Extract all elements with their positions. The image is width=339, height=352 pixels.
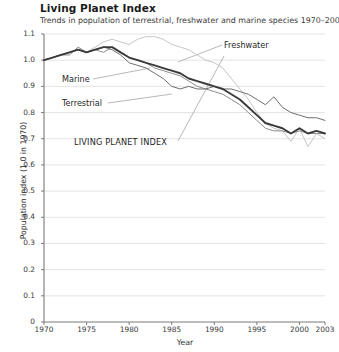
x-axis-title: Year <box>177 338 194 347</box>
series-label-living-planet-index: LIVING PLANET INDEX <box>74 138 167 147</box>
x-tick-label: 1975 <box>77 325 96 334</box>
x-tick-label: 1970 <box>35 325 54 334</box>
leader-marine <box>93 68 150 79</box>
series-label-marine: Marine <box>62 75 90 84</box>
x-tick-label: 1995 <box>247 325 266 334</box>
x-tick-label: 1985 <box>162 325 181 334</box>
living-planet-index-figure: Living Planet Index Trends in population… <box>0 0 339 352</box>
leader-freshwater <box>178 45 222 62</box>
leader-living-planet-index <box>178 56 224 141</box>
series-label-freshwater: Freshwater <box>224 41 269 50</box>
series-label-terrestrial: Terrestrial <box>62 99 102 108</box>
x-tick-label: 1980 <box>120 325 139 334</box>
data-series-group <box>44 37 325 147</box>
x-tick-label: 2003 <box>316 325 335 334</box>
x-tick-label: 2000 <box>290 325 309 334</box>
y-axis-title: Population index (1.0 in 1970) <box>19 106 28 256</box>
leader-terrestrial <box>108 94 172 103</box>
x-tick-label: 1990 <box>205 325 224 334</box>
